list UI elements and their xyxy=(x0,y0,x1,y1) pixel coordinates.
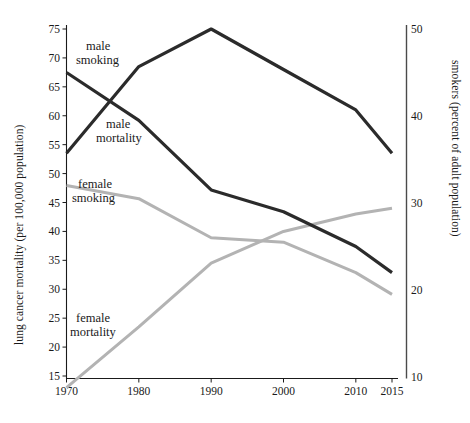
y-axis-left-tick-label: 70 xyxy=(49,52,61,64)
annotation-male-mortality-line1: male xyxy=(106,117,131,131)
x-axis-tick-label: 2015 xyxy=(381,385,404,397)
y-axis-left-tick-label: 20 xyxy=(49,341,61,353)
y-axis-right-tick-label: 30 xyxy=(411,197,423,209)
x-axis-tick-label: 2000 xyxy=(272,385,295,397)
y-axis-right-tick-label: 40 xyxy=(411,110,423,122)
y-axis-right-title: smokers (percent of adult population) xyxy=(449,60,462,237)
annotation-female-mortality: female mortality xyxy=(70,311,117,339)
y-axis-left-title: lung cancer mortality (per 100,000 popul… xyxy=(13,124,26,345)
y-axis-left-tick-label: 50 xyxy=(49,168,61,180)
annotation-female-mortality-line1: female xyxy=(76,311,110,325)
annotation-female-smoking: female smoking xyxy=(72,177,116,205)
line-chart: 75706560555045403530252015 5040302010 19… xyxy=(0,0,470,423)
x-axis-ticks: 197019801990200020102015 xyxy=(55,379,404,398)
x-axis-tick-label: 1980 xyxy=(127,385,150,397)
annotation-male-mortality: male mortality xyxy=(96,117,143,145)
y-axis-right-tick-label: 10 xyxy=(411,371,423,383)
x-axis-tick-label: 2010 xyxy=(344,385,367,397)
y-axis-left-tick-label: 30 xyxy=(49,283,61,295)
y-axis-right-tick-label: 50 xyxy=(411,23,423,35)
annotation-male-smoking-line1: male xyxy=(86,39,111,53)
right-axis-ticks: 5040302010 xyxy=(411,23,423,383)
y-axis-right-tick-label: 20 xyxy=(411,284,423,296)
annotation-female-smoking-line1: female xyxy=(78,177,112,191)
left-axis-ticks: 75706560555045403530252015 xyxy=(49,23,67,382)
y-axis-left-tick-label: 35 xyxy=(49,254,61,266)
y-axis-left-tick-label: 65 xyxy=(49,81,61,93)
annotation-female-smoking-line2: smoking xyxy=(72,191,116,205)
annotation-male-smoking: male smoking xyxy=(76,39,120,67)
y-axis-left-tick-label: 75 xyxy=(49,23,61,35)
y-axis-left-tick-label: 25 xyxy=(49,312,61,324)
left-axis-line xyxy=(67,25,399,379)
y-axis-left-tick-label: 40 xyxy=(49,225,61,237)
annotation-male-smoking-line2: smoking xyxy=(76,53,120,67)
y-axis-left-tick-label: 45 xyxy=(49,197,61,209)
y-axis-left-tick-label: 60 xyxy=(49,110,61,122)
y-axis-left-tick-label: 55 xyxy=(49,139,61,151)
annotation-male-mortality-line2: mortality xyxy=(96,131,143,145)
chart-figure: 75706560555045403530252015 5040302010 19… xyxy=(0,0,470,423)
series-line-female-mortality xyxy=(67,208,393,387)
y-axis-left-tick-label: 15 xyxy=(49,370,61,382)
x-axis-tick-label: 1990 xyxy=(200,385,223,397)
annotation-female-mortality-line2: mortality xyxy=(70,325,117,339)
